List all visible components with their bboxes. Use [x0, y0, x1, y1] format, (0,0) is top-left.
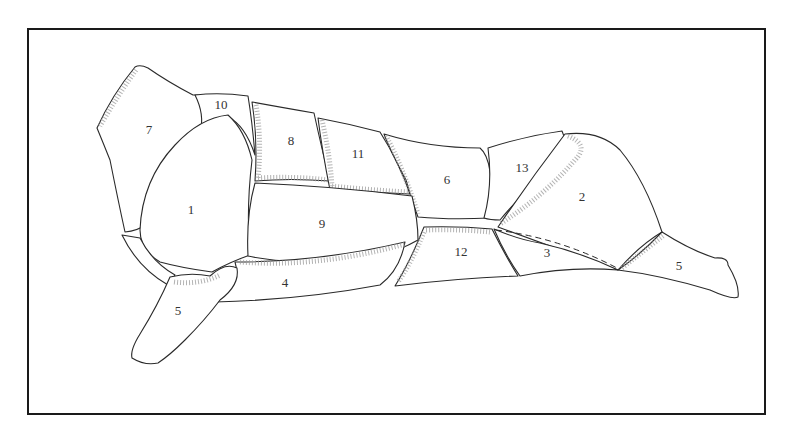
region-label-13: 13 — [516, 160, 529, 176]
region-label-3: 3 — [544, 245, 551, 261]
region-label-4: 4 — [282, 275, 289, 291]
region-label-10: 10 — [215, 97, 228, 113]
region-label-5-front: 5 — [175, 303, 182, 319]
region-label-9: 9 — [319, 216, 326, 232]
region-label-11: 11 — [352, 146, 365, 162]
region-label-6: 6 — [444, 172, 451, 188]
region-label-1: 1 — [188, 202, 195, 218]
region-label-8: 8 — [288, 133, 295, 149]
diagram-drawing — [0, 0, 807, 429]
region-label-12: 12 — [455, 244, 468, 260]
region-5-front — [132, 266, 238, 364]
region-label-5-rear: 5 — [676, 258, 683, 274]
carcass-cuts-diagram: 1 2 3 4 5 5 6 7 8 9 10 11 12 13 — [0, 0, 807, 429]
region-label-7: 7 — [146, 122, 153, 138]
region-label-2: 2 — [579, 189, 586, 205]
